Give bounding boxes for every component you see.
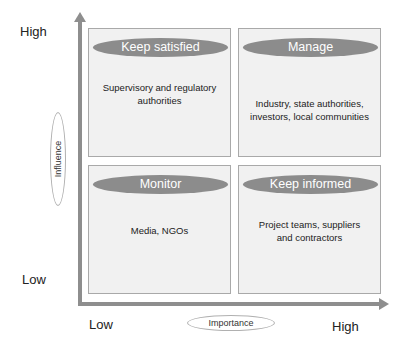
x-axis-low-label: Low (89, 317, 113, 332)
quadrant-keep-informed: Keep informed Project teams, suppliers a… (238, 165, 381, 294)
x-axis-title: Importance (187, 315, 275, 331)
y-axis-high-label: High (20, 24, 47, 39)
y-axis-title: Influence (50, 112, 66, 206)
quadrant-manage: Manage Industry, state authorities, inve… (238, 28, 381, 157)
x-axis-line (78, 302, 380, 306)
quadrant-monitor: Monitor Media, NGOs (88, 165, 231, 294)
quadrant-description: Industry, state authorities, investors, … (241, 97, 378, 123)
quadrant-title: Manage (243, 38, 378, 57)
y-axis-title-text: Influence (53, 141, 63, 178)
arrow-right-icon (379, 298, 389, 310)
quadrant-title: Keep satisfied (93, 38, 228, 57)
y-axis-line (78, 20, 82, 306)
arrow-up-icon (74, 12, 86, 22)
quadrant-keep-satisfied: Keep satisfied Supervisory and regulator… (88, 28, 231, 157)
quadrant-description: Media, NGOs (91, 224, 228, 237)
x-axis-high-label: High (332, 319, 359, 334)
quadrant-description: Supervisory and regulatory authorities (91, 81, 228, 107)
quadrant-description: Project teams, suppliers and contractors (241, 218, 378, 244)
quadrant-title: Keep informed (243, 175, 378, 194)
quadrant-title: Monitor (93, 175, 228, 194)
y-axis-low-label: Low (22, 272, 46, 287)
